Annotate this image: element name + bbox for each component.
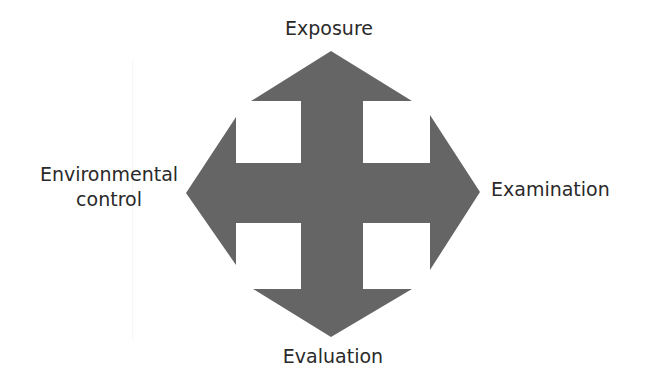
label-examination: Examination: [491, 177, 610, 202]
diagram-canvas: Exposure Examination Evaluation Environm…: [0, 0, 646, 391]
cross-arrow-icon: [186, 51, 480, 337]
label-environmental-line1: Environmental: [28, 162, 190, 187]
label-evaluation: Evaluation: [0, 344, 646, 369]
label-environmental-control: Environmental control: [28, 162, 190, 212]
label-environmental-line2: control: [28, 187, 190, 212]
label-exposure: Exposure: [0, 16, 646, 41]
